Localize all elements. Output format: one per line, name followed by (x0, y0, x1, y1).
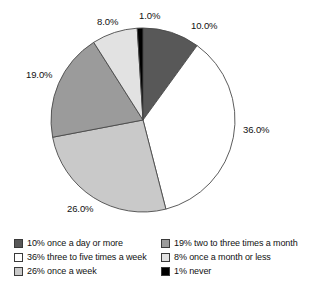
legend-item-label: 19% two to three times a month (174, 236, 298, 250)
legend-swatch (14, 267, 23, 276)
legend-swatch (14, 239, 23, 248)
pie-slice-value-label: 26.0% (67, 203, 93, 214)
pie-slice-value-label: 8.0% (97, 16, 118, 27)
legend-item[interactable]: 10% once a day or more (14, 236, 164, 250)
legend-swatch (161, 253, 170, 262)
legend-item[interactable]: 36% three to five times a week (14, 250, 164, 264)
pie-slice-value-label: 1.0% (139, 10, 160, 21)
pie-chart-svg (0, 0, 326, 230)
legend-item-label: 26% once a week (27, 264, 97, 278)
pie-slice-value-label: 36.0% (243, 124, 269, 135)
legend-item[interactable]: 19% two to three times a month (161, 236, 326, 250)
legend-item-label: 1% never (174, 264, 211, 278)
legend-swatch (14, 253, 23, 262)
legend-swatch (161, 239, 170, 248)
legend-item[interactable]: 1% never (161, 264, 326, 278)
legend-item[interactable]: 26% once a week (14, 264, 164, 278)
legend-swatch (161, 267, 170, 276)
pie-slice-value-label: 19.0% (26, 69, 52, 80)
legend-item[interactable]: 8% once a month or less (161, 250, 326, 264)
legend-column-right: 19% two to three times a month8% once a … (161, 236, 326, 278)
legend-column-left: 10% once a day or more36% three to five … (14, 236, 164, 278)
chart-legend: 10% once a day or more36% three to five … (14, 236, 314, 282)
pie-slice-group (51, 28, 235, 212)
legend-item-label: 8% once a month or less (174, 250, 271, 264)
pie-chart-figure: 10.0%36.0%26.0%19.0%8.0%1.0% 10% once a … (0, 0, 326, 292)
legend-item-label: 36% three to five times a week (27, 250, 147, 264)
pie-chart-plot-area: 10.0%36.0%26.0%19.0%8.0%1.0% (0, 0, 326, 230)
pie-slice-value-label: 10.0% (191, 20, 217, 31)
legend-item-label: 10% once a day or more (27, 236, 123, 250)
